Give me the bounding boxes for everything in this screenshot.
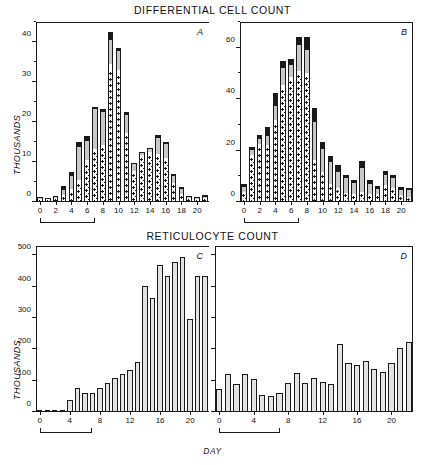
stacked-bar — [320, 142, 326, 202]
bar-slot — [99, 22, 107, 202]
bar — [142, 286, 147, 412]
bar-slot — [284, 246, 293, 412]
x-tick-label: 4 — [68, 416, 72, 425]
bar-segment-checkered — [124, 136, 130, 202]
bar — [135, 362, 140, 412]
bar-slot — [248, 22, 256, 202]
bar — [105, 383, 110, 412]
bar-body — [150, 298, 155, 412]
y-tick-label: 500 — [18, 242, 31, 251]
y-tick-minor — [238, 72, 241, 73]
bar-slot — [240, 22, 248, 202]
treatment-period-bracket — [219, 428, 279, 433]
bar-slot — [138, 22, 146, 202]
panel-a-letter: A — [197, 27, 203, 37]
bar — [345, 363, 351, 412]
bar-segment-checkered — [320, 175, 326, 202]
stacked-bar — [139, 152, 145, 202]
y-tick-minor — [34, 141, 37, 142]
bar-segment-gray — [84, 141, 90, 160]
x-tick — [385, 202, 386, 205]
panel-b-letter: B — [401, 27, 407, 37]
x-tick-label: 14 — [350, 206, 359, 215]
stacked-bar — [100, 109, 106, 202]
y-tick-minor — [213, 254, 216, 255]
stacked-bar — [328, 156, 334, 202]
bar-slot — [271, 22, 279, 202]
x-tick — [338, 202, 339, 205]
x-tick-label: 20 — [397, 206, 406, 215]
bar-slot — [141, 246, 149, 412]
bar-slot — [344, 246, 353, 412]
stacked-bar — [273, 93, 279, 202]
bar-body — [363, 361, 369, 412]
bar-segment-checkered — [84, 165, 90, 202]
bar-body — [380, 372, 386, 412]
y-tick-label: 40 — [22, 29, 31, 38]
bar-slot — [74, 246, 82, 412]
y-tick — [32, 41, 36, 42]
bar-slot — [154, 22, 162, 202]
bar — [371, 369, 377, 412]
y-tick-label: 0 — [231, 189, 235, 198]
y-tick — [32, 348, 36, 349]
panel-d-plot-area: 048121620 — [215, 246, 413, 412]
bar — [294, 373, 300, 412]
bar-segment-gray — [92, 109, 98, 149]
bar — [172, 262, 177, 412]
bar — [82, 393, 87, 412]
bar-slot — [379, 246, 388, 412]
bar-slot — [389, 22, 397, 202]
x-axis-label: DAY — [0, 446, 425, 456]
bar-slot — [381, 22, 389, 202]
x-tick-label: 4 — [252, 416, 256, 425]
stacked-bar — [383, 171, 389, 202]
y-tick — [236, 98, 240, 99]
bar-segment-checkered — [108, 72, 114, 202]
bar-body — [397, 348, 403, 412]
y-tick-minor — [34, 21, 37, 22]
y-tick-label: 40 — [226, 86, 235, 95]
treatment-period-bracket — [244, 218, 299, 223]
x-tick-label: 16 — [161, 206, 170, 215]
bar — [157, 265, 162, 412]
x-tick — [219, 412, 220, 415]
bar-segment-gray — [273, 106, 279, 120]
bar-segment-checkered — [383, 188, 389, 202]
bar-segment-checkered — [155, 157, 161, 202]
x-tick-label: 14 — [146, 206, 155, 215]
x-tick — [40, 412, 41, 415]
bar-slot — [397, 22, 405, 202]
bar — [328, 384, 334, 412]
bar-segment-gray — [288, 65, 294, 77]
stacked-bar — [147, 148, 153, 202]
stacked-bar — [304, 37, 310, 202]
x-tick-label: 8 — [101, 206, 105, 215]
bar-body — [371, 369, 377, 412]
bar-segment-black — [273, 93, 279, 106]
x-tick — [288, 412, 289, 415]
x-tick — [56, 202, 57, 205]
stacked-bar — [171, 174, 177, 202]
bar-slot — [67, 22, 75, 202]
bar-segment-checkered — [116, 76, 122, 202]
bar — [259, 395, 265, 412]
x-tick-label: 20 — [186, 416, 195, 425]
panel-b: 020406002468101214161820 B — [240, 22, 413, 202]
bar-slot — [51, 246, 59, 412]
panel-c-plot-area: 0100200300400500048121620 — [36, 246, 209, 412]
bar-segment-gray — [367, 184, 373, 194]
y-tick-label: 400 — [18, 273, 31, 282]
stacked-bar — [249, 147, 255, 202]
bar-segment-gray — [163, 144, 169, 158]
x-tick-label: 18 — [381, 206, 390, 215]
panel-d-bars — [215, 246, 413, 412]
x-tick-label: 10 — [114, 206, 123, 215]
bar — [354, 365, 360, 412]
panel-b-bars — [240, 22, 413, 202]
x-tick-label: 16 — [353, 416, 362, 425]
stacked-bar — [69, 172, 75, 202]
bar-body — [157, 265, 162, 412]
stacked-bar — [241, 184, 247, 202]
bar-segment-gray — [343, 178, 349, 192]
